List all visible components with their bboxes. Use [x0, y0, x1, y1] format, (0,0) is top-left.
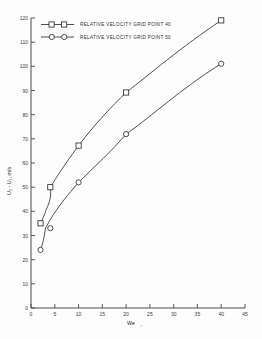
y-axis: 120 110 100 90 80 70 60 50 40 30	[6, 15, 35, 311]
y-tick-label: 0	[25, 305, 28, 311]
data-point-marker	[48, 226, 53, 231]
legend-circle-marker	[62, 34, 67, 39]
legend-label: RELATIVE VELOCITY GRID POINT 40	[80, 22, 171, 27]
chart-page: 120 110 100 90 80 70 60 50 40 30	[0, 0, 262, 339]
x-axis: 0 5 10 15 20 25 30 35 40 45	[30, 304, 248, 328]
legend-label: RELATIVE VELOCITY GRID POINT 50	[80, 35, 171, 40]
series-line-grid-point-40	[41, 20, 222, 223]
legend: RELATIVE VELOCITY GRID POINT 40 RELATIVE…	[41, 22, 171, 40]
x-tick-label: 25	[147, 311, 153, 317]
x-tick-label: 40	[218, 311, 224, 317]
x-axis-title-subscript: ₗ	[141, 324, 142, 328]
y-tick-label: 90	[22, 88, 28, 94]
legend-entry-grid-point-40[interactable]: RELATIVE VELOCITY GRID POINT 40	[41, 22, 171, 28]
y-tick-label: 120	[20, 15, 29, 21]
y-tick-label: 100	[20, 63, 29, 69]
legend-circle-marker	[49, 34, 54, 39]
data-point-marker	[76, 180, 81, 185]
series-grid-point-40	[38, 18, 224, 226]
data-point-marker	[48, 185, 53, 190]
y-axis-title: U₂ - U₁, m/s	[6, 167, 12, 195]
y-tick-label: 20	[22, 257, 28, 263]
data-point-marker	[38, 247, 43, 252]
y-axis-ticks: 120 110 100 90 80 70 60 50 40 30	[20, 15, 35, 311]
line-chart: 120 110 100 90 80 70 60 50 40 30	[0, 0, 262, 339]
series-line-grid-point-50	[41, 64, 222, 250]
x-tick-label: 20	[123, 311, 129, 317]
x-tick-label: 30	[171, 311, 177, 317]
x-axis-ticks: 0 5 10 15 20 25 30 35 40 45	[30, 304, 248, 317]
y-tick-label: 30	[22, 233, 28, 239]
legend-square-marker	[62, 22, 67, 27]
y-tick-label: 40	[22, 208, 28, 214]
y-tick-label: 60	[22, 160, 28, 166]
x-tick-label: 10	[76, 311, 82, 317]
x-tick-label: 5	[53, 311, 56, 317]
x-axis-title: We	[127, 320, 135, 326]
data-point-marker	[38, 221, 43, 226]
data-point-marker	[219, 18, 224, 23]
data-point-marker	[124, 132, 129, 137]
y-tick-label: 50	[22, 184, 28, 190]
data-point-marker	[219, 61, 224, 66]
data-point-marker	[124, 90, 129, 95]
legend-entry-grid-point-50[interactable]: RELATIVE VELOCITY GRID POINT 50	[41, 34, 171, 40]
y-tick-label: 10	[22, 281, 28, 287]
x-tick-label: 0	[30, 311, 33, 317]
series-grid-point-50	[38, 61, 224, 252]
legend-square-marker	[49, 22, 54, 27]
x-tick-label: 45	[242, 311, 248, 317]
y-tick-label: 110	[20, 39, 28, 45]
y-tick-label: 70	[22, 136, 28, 142]
data-point-marker	[76, 143, 81, 148]
y-tick-label: 80	[22, 112, 28, 118]
x-tick-label: 15	[100, 311, 106, 317]
x-tick-label: 35	[195, 311, 201, 317]
